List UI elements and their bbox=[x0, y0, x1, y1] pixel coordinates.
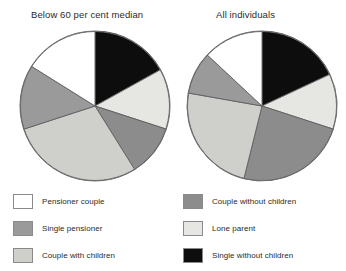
legend-item-lone-parent: Lone parent bbox=[183, 217, 296, 239]
legend-swatch-single-pensioner bbox=[13, 221, 33, 236]
legend-label-lone-parent: Lone parent bbox=[212, 224, 255, 233]
legend: Pensioner couple Single pensioner Couple… bbox=[0, 190, 346, 271]
legend-label-single-without-children: Single without children bbox=[212, 251, 293, 260]
legend-swatch-couple-without-children bbox=[183, 194, 203, 209]
legend-column-right: Couple without children Lone parent Sing… bbox=[183, 190, 296, 271]
legend-item-single-pensioner: Single pensioner bbox=[13, 217, 115, 239]
chart-title-left: Below 60 per cent median bbox=[31, 9, 143, 20]
legend-label-couple-without-children: Couple without children bbox=[212, 197, 296, 206]
legend-item-single-without-children: Single without children bbox=[183, 244, 296, 266]
legend-label-pensioner-couple: Pensioner couple bbox=[42, 197, 105, 206]
legend-column-left: Pensioner couple Single pensioner Couple… bbox=[13, 190, 115, 271]
legend-item-couple-without-children: Couple without children bbox=[183, 190, 296, 212]
legend-label-single-pensioner: Single pensioner bbox=[42, 224, 102, 233]
legend-item-pensioner-couple: Pensioner couple bbox=[13, 190, 115, 212]
chart-title-right: All individuals bbox=[216, 9, 275, 20]
legend-swatch-couple-with-children bbox=[13, 248, 33, 263]
pie-svg-left bbox=[19, 30, 171, 182]
pie-chart-all-individuals bbox=[186, 30, 338, 182]
legend-swatch-pensioner-couple bbox=[13, 194, 33, 209]
legend-swatch-lone-parent bbox=[183, 221, 203, 236]
pie-chart-below-median bbox=[19, 30, 171, 182]
legend-label-couple-with-children: Couple with children bbox=[42, 251, 115, 260]
legend-item-couple-with-children: Couple with children bbox=[13, 244, 115, 266]
pie-chart-figure: Below 60 per cent median All individuals… bbox=[0, 0, 346, 271]
pie-svg-right bbox=[186, 30, 338, 182]
legend-swatch-single-without-children bbox=[183, 248, 203, 263]
